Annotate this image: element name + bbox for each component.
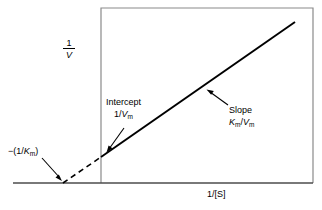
y-axis-label-numerator: 1 — [63, 38, 75, 48]
x-intercept-subscript: m — [30, 150, 35, 157]
y-axis-label: 1 V — [63, 38, 75, 61]
lineweaver-burk-figure: 1 V 1/[S] −(1/Km) Intercept1/Vm SlopeKm/… — [0, 0, 322, 210]
y-intercept-arrow — [107, 128, 125, 153]
plot-canvas — [0, 0, 322, 210]
slope-annotation: SlopeKm/Vm — [229, 104, 254, 129]
x-intercept-prefix: −(1/ — [8, 146, 24, 156]
x-intercept-annotation: −(1/Km) — [8, 146, 38, 157]
y-axis-label-denominator: V — [63, 48, 75, 61]
slope-line2: Km/Vm — [229, 116, 254, 129]
regression-line — [101, 22, 295, 157]
y-intercept-line2: 1/Vm — [106, 108, 141, 121]
x-intercept-suffix: ) — [35, 146, 38, 156]
y-intercept-numerator: 1/ — [114, 109, 122, 119]
slope-arrow — [207, 90, 229, 106]
y-intercept-symbol: V — [122, 109, 128, 119]
y-intercept-line1: Intercept — [106, 97, 141, 107]
extrapolation-dashed-line — [63, 157, 101, 183]
x-axis-label: 1/[S] — [207, 189, 226, 200]
y-intercept-subscript: m — [128, 113, 133, 120]
slope-subscript-km: m — [235, 121, 240, 128]
x-intercept-arrow — [42, 158, 62, 181]
y-intercept-annotation: Intercept1/Vm — [106, 96, 141, 121]
x-intercept-symbol: K — [24, 146, 30, 156]
slope-subscript-vm: m — [249, 121, 254, 128]
slope-line1: Slope — [229, 105, 252, 115]
